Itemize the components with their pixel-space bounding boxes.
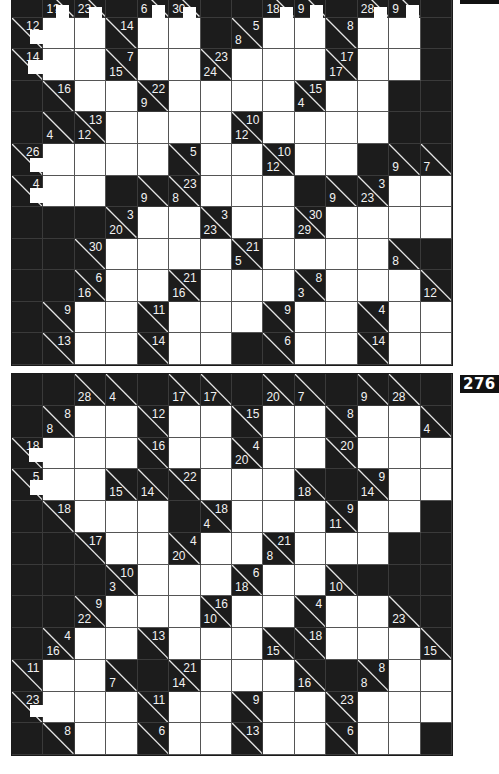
answer-cell[interactable] [232,176,263,208]
answer-cell[interactable] [169,81,200,113]
answer-cell[interactable] [201,628,232,660]
answer-cell[interactable] [43,176,74,208]
answer-cell[interactable] [75,18,106,50]
answer-cell[interactable] [138,18,169,50]
answer-cell[interactable] [389,18,420,50]
answer-cell[interactable] [326,628,357,660]
answer-cell[interactable] [358,533,389,565]
answer-cell[interactable] [358,501,389,533]
answer-cell[interactable] [75,501,106,533]
answer-cell[interactable] [75,176,106,208]
answer-cell[interactable] [263,406,294,438]
answer-cell[interactable] [263,565,294,597]
answer-cell[interactable] [389,692,420,724]
answer-cell[interactable] [201,692,232,724]
answer-cell[interactable] [263,18,294,50]
answer-cell[interactable] [421,207,452,239]
answer-cell[interactable] [326,81,357,113]
answer-cell[interactable] [389,660,420,692]
answer-cell[interactable] [75,144,106,176]
answer-cell[interactable] [295,49,326,81]
answer-cell[interactable] [138,144,169,176]
answer-cell[interactable] [138,501,169,533]
answer-cell[interactable] [232,270,263,302]
answer-cell[interactable] [295,333,326,365]
answer-cell[interactable] [106,501,137,533]
answer-cell[interactable] [232,144,263,176]
answer-cell[interactable] [421,692,452,724]
answer-cell[interactable] [75,302,106,334]
answer-cell[interactable] [295,723,326,755]
answer-cell[interactable] [138,112,169,144]
answer-cell[interactable] [169,723,200,755]
answer-cell[interactable] [389,469,420,501]
answer-cell[interactable] [138,533,169,565]
answer-cell[interactable] [295,239,326,271]
answer-cell[interactable] [358,723,389,755]
answer-cell[interactable] [421,469,452,501]
answer-cell[interactable] [201,81,232,113]
answer-cell[interactable] [106,406,137,438]
answer-cell[interactable] [232,628,263,660]
answer-cell[interactable] [201,533,232,565]
answer-cell[interactable] [295,18,326,50]
answer-cell[interactable] [106,302,137,334]
answer-cell[interactable] [358,270,389,302]
answer-cell[interactable] [263,239,294,271]
answer-cell[interactable] [326,596,357,628]
answer-cell[interactable] [106,692,137,724]
answer-cell[interactable] [169,239,200,271]
answer-cell[interactable] [326,302,357,334]
answer-cell[interactable] [201,112,232,144]
answer-cell[interactable] [43,469,74,501]
answer-cell[interactable] [358,596,389,628]
answer-cell[interactable] [263,49,294,81]
answer-cell[interactable] [75,469,106,501]
answer-cell[interactable] [263,692,294,724]
answer-cell[interactable] [106,438,137,470]
answer-cell[interactable] [75,692,106,724]
answer-cell[interactable] [169,207,200,239]
answer-cell[interactable] [358,239,389,271]
answer-cell[interactable] [295,533,326,565]
answer-cell[interactable] [138,239,169,271]
answer-cell[interactable] [358,81,389,113]
answer-cell[interactable] [389,628,420,660]
answer-cell[interactable] [75,49,106,81]
answer-cell[interactable] [232,302,263,334]
answer-cell[interactable] [295,692,326,724]
answer-cell[interactable] [169,406,200,438]
answer-cell[interactable] [326,239,357,271]
answer-cell[interactable] [138,565,169,597]
answer-cell[interactable] [138,207,169,239]
answer-cell[interactable] [201,660,232,692]
answer-cell[interactable] [389,270,420,302]
answer-cell[interactable] [421,302,452,334]
answer-cell[interactable] [263,596,294,628]
answer-cell[interactable] [421,660,452,692]
answer-cell[interactable] [75,81,106,113]
answer-cell[interactable] [169,628,200,660]
answer-cell[interactable] [201,270,232,302]
answer-cell[interactable] [43,18,74,50]
answer-cell[interactable] [232,660,263,692]
answer-cell[interactable] [201,144,232,176]
answer-cell[interactable] [326,144,357,176]
answer-cell[interactable] [389,49,420,81]
answer-cell[interactable] [326,270,357,302]
answer-cell[interactable] [421,333,452,365]
answer-cell[interactable] [75,723,106,755]
answer-cell[interactable] [295,565,326,597]
answer-cell[interactable] [106,333,137,365]
answer-cell[interactable] [389,176,420,208]
answer-cell[interactable] [389,333,420,365]
answer-cell[interactable] [263,207,294,239]
answer-cell[interactable] [232,596,263,628]
answer-cell[interactable] [106,596,137,628]
answer-cell[interactable] [169,438,200,470]
answer-cell[interactable] [358,406,389,438]
answer-cell[interactable] [43,692,74,724]
answer-cell[interactable] [201,406,232,438]
answer-cell[interactable] [75,660,106,692]
answer-cell[interactable] [358,49,389,81]
